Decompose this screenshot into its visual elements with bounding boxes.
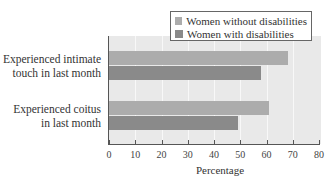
x-tick <box>162 140 163 144</box>
x-tick <box>319 140 320 144</box>
x-tick-label: 40 <box>204 149 224 160</box>
x-tick-label: 20 <box>152 149 172 160</box>
category-label-intimate-touch: Experienced intimate touch in last month <box>3 52 101 80</box>
bar-coitus-without-disabilities <box>109 101 269 115</box>
x-axis-title: Percentage <box>170 164 270 176</box>
x-tick-label: 30 <box>178 149 198 160</box>
bar-intimate-touch-without-disabilities <box>109 51 288 65</box>
gridline <box>293 36 294 144</box>
y-axis-line <box>108 36 109 145</box>
legend-label: Women with disabilities <box>187 28 294 40</box>
x-tick-label: 50 <box>230 149 250 160</box>
category-label-line: Experienced intimate <box>3 52 101 66</box>
legend-label: Women without disabilities <box>186 15 307 27</box>
x-tick <box>267 140 268 144</box>
legend: Women without disabilities Women with di… <box>170 11 312 41</box>
bar-coitus-with-disabilities <box>109 116 238 130</box>
x-tick <box>135 140 136 144</box>
category-label-line: touch in last month <box>3 66 101 80</box>
category-label-line: in last month <box>13 116 101 130</box>
x-tick <box>240 140 241 144</box>
x-tick-label: 0 <box>99 149 119 160</box>
x-tick <box>109 140 110 144</box>
legend-item-with-disabilities: Women with disabilities <box>175 27 307 40</box>
legend-swatch-dark-icon <box>175 30 183 38</box>
x-tick <box>188 140 189 144</box>
x-axis-line <box>108 144 320 145</box>
x-tick-label: 80 <box>309 149 329 160</box>
x-tick-label: 10 <box>125 149 145 160</box>
x-tick-label: 70 <box>283 149 303 160</box>
x-tick <box>214 140 215 144</box>
bar-intimate-touch-with-disabilities <box>109 66 261 80</box>
x-tick <box>293 140 294 144</box>
category-label-line: Experienced coitus <box>13 102 101 116</box>
category-label-coitus: Experienced coitus in last month <box>13 102 101 130</box>
legend-item-without-disabilities: Women without disabilities <box>175 14 307 27</box>
legend-swatch-light-icon <box>175 17 182 25</box>
x-tick-label: 60 <box>257 149 277 160</box>
